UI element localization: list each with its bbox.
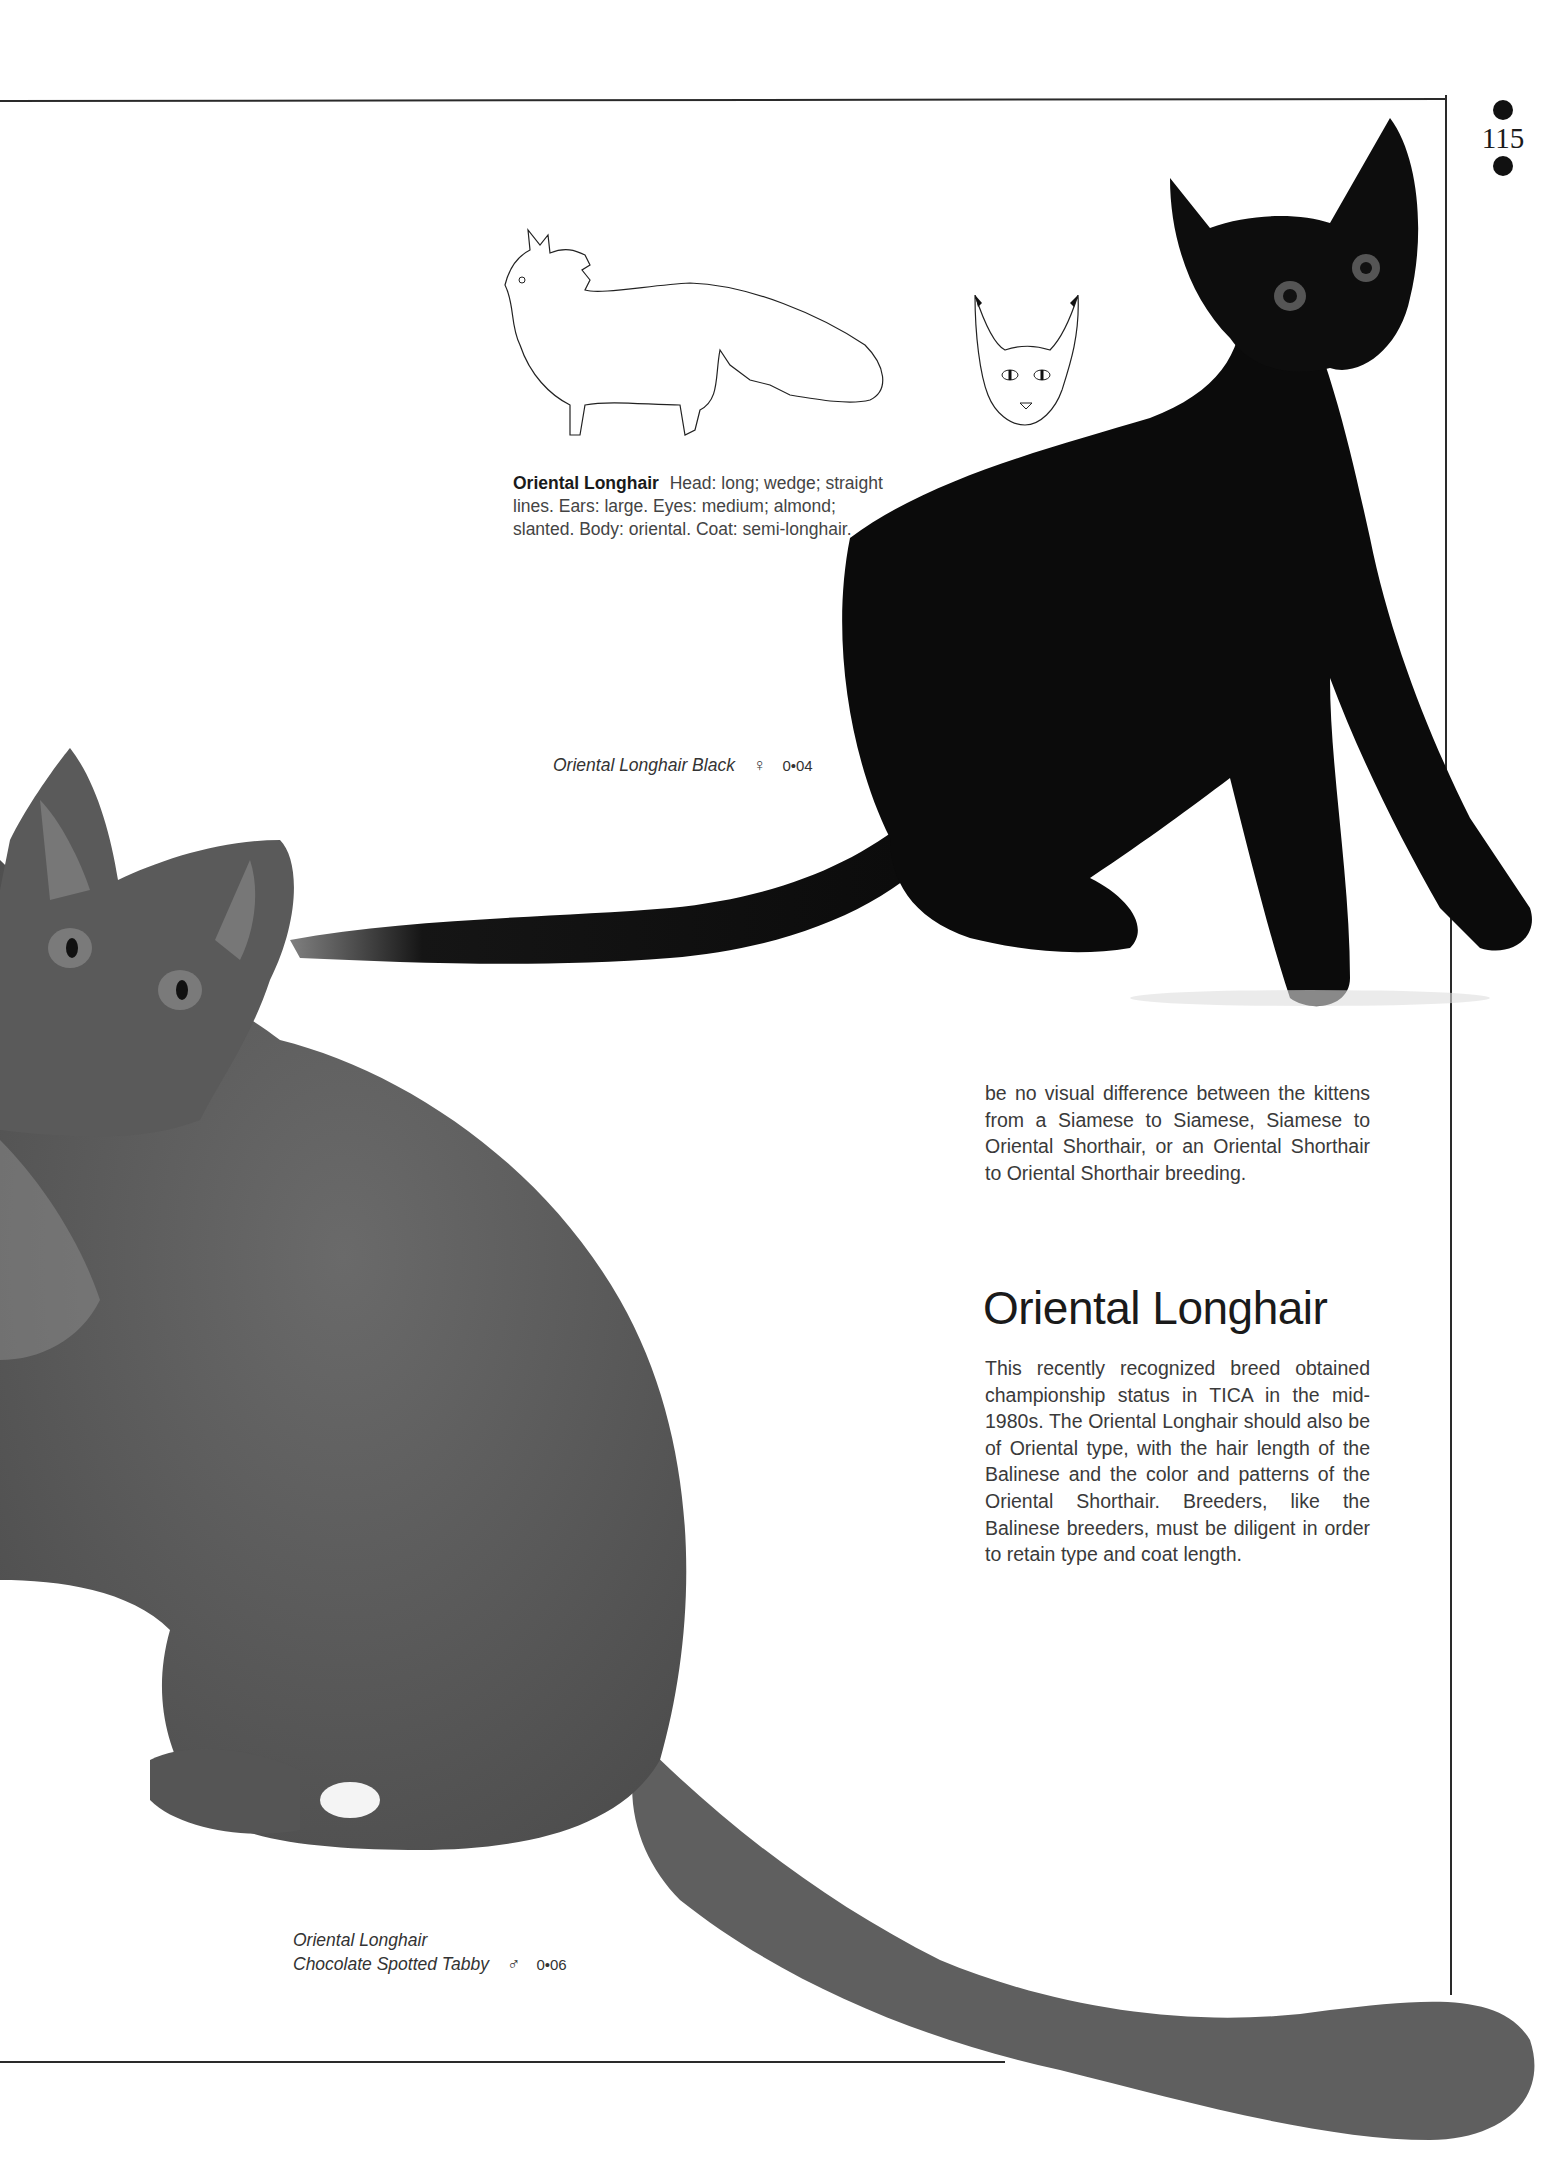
cat-head-line-drawing-icon: [970, 295, 1080, 435]
caption-title: Oriental Longhair Black: [553, 755, 735, 775]
caption-title-line-2: Chocolate Spotted Tabby: [293, 1954, 489, 1974]
female-symbol-icon: ♀: [753, 755, 767, 775]
breed-summary-name: Oriental Longhair: [513, 473, 659, 493]
caption-age-code: 0•06: [536, 1956, 566, 1973]
breed-summary: Oriental Longhair Head: long; wedge; str…: [513, 472, 898, 541]
article-section-column: This recently recognized breed obtained …: [985, 1355, 1370, 1568]
caption-age-code: 0•04: [782, 757, 812, 774]
continued-paragraph: be no visual difference between the kitt…: [985, 1080, 1370, 1186]
section-paragraph: This recently recognized breed obtained …: [985, 1355, 1370, 1568]
caption-title-line-1: Oriental Longhair: [293, 1928, 567, 1952]
caption-black-cat: Oriental Longhair Black♀0•04: [553, 753, 813, 778]
drawing-head-front: [970, 295, 1080, 435]
cat-profile-line-drawing-icon: [490, 225, 940, 440]
bullet-icon: [1493, 100, 1513, 120]
article-continued-column: be no visual difference between the kitt…: [985, 1080, 1370, 1186]
section-heading: Oriental Longhair: [983, 1281, 1327, 1335]
caption-tabby-cat: Oriental Longhair Chocolate Spotted Tabb…: [293, 1928, 567, 1977]
drawing-body-profile: [490, 225, 940, 440]
male-symbol-icon: ♂: [507, 1954, 521, 1974]
page-top-rule: [0, 98, 1446, 102]
